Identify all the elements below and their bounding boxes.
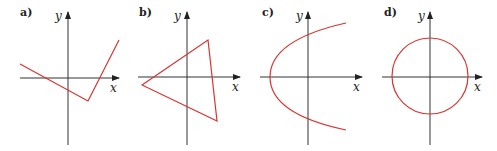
panel-a: a) y x <box>20 6 119 145</box>
diagram: a) y x b) y x c) y x d) y x <box>0 0 497 151</box>
triangle-graph <box>142 40 217 121</box>
panel-label-a: a) <box>20 6 32 19</box>
panel-c: c) y x <box>260 6 362 145</box>
x-axis-label: x <box>474 80 481 94</box>
panel-label-c: c) <box>262 6 274 19</box>
panel-d: d) y x <box>382 6 482 145</box>
y-axis-label: y <box>173 9 181 23</box>
y-axis-label: y <box>54 9 62 23</box>
x-axis-label: x <box>232 80 239 94</box>
panel-b: b) y x <box>138 6 240 145</box>
y-axis-label: y <box>295 9 303 23</box>
y-axis-label: y <box>417 9 425 23</box>
x-axis-label: x <box>353 80 360 94</box>
v-shaped-graph <box>20 40 119 101</box>
panel-label-d: d) <box>384 6 397 19</box>
panel-label-b: b) <box>139 6 152 19</box>
x-axis-label: x <box>110 81 117 95</box>
